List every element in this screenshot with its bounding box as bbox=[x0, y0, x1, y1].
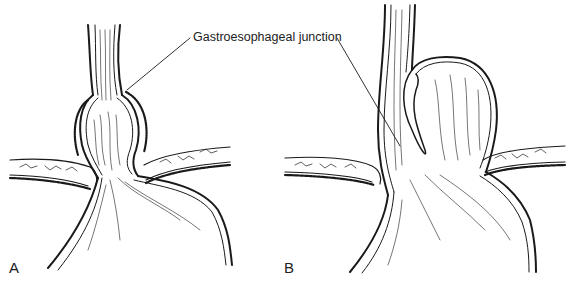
diaphragm-left-b bbox=[285, 157, 381, 185]
leader-line-b bbox=[337, 38, 400, 146]
paraesophageal-hernia-b bbox=[404, 57, 497, 172]
diaphragm-left-a bbox=[10, 159, 97, 189]
panel-b-illustration bbox=[285, 5, 565, 273]
esophagus-a bbox=[88, 25, 122, 100]
diaphragm-right-b bbox=[483, 146, 565, 175]
diaphragm-right-a bbox=[144, 147, 230, 183]
panel-a-label: A bbox=[9, 259, 19, 276]
leader-line-a bbox=[127, 38, 190, 90]
esophagus-b bbox=[378, 5, 415, 195]
stomach-b bbox=[350, 172, 536, 273]
gastroesophageal-junction-label: Gastroesophageal junction bbox=[193, 30, 342, 44]
panel-b-label: B bbox=[284, 259, 294, 276]
stomach-a bbox=[48, 176, 232, 270]
panel-a-illustration bbox=[10, 25, 232, 270]
